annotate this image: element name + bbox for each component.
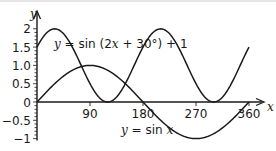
y-tick-label: 1.0 [12, 59, 31, 73]
x-tick-label: 90 [82, 107, 97, 121]
chart: −1−0.500.51.01.5290180270360 y x y = sin… [0, 0, 276, 151]
y-axis-label: y [29, 7, 37, 21]
x-tick-label: 360 [238, 107, 261, 121]
curve1-label-suffix: + 30°) + 1 [119, 37, 188, 51]
y-tick-label: 0.5 [12, 77, 31, 91]
curve1-label: y = sin (2x + 30°) + 1 [53, 37, 188, 51]
curve2-label-text: = sin [128, 123, 167, 137]
y-tick-label: −1 [13, 132, 31, 146]
y-tick-label: −0.5 [2, 114, 31, 128]
y-tick-label: 2 [23, 22, 31, 36]
curve1-label-text: = sin (2 [61, 37, 112, 51]
y-tick-label: 1.5 [12, 41, 31, 55]
x-tick-label: 270 [185, 107, 208, 121]
x-axis-label: x [267, 100, 274, 114]
x-tick-label: 180 [132, 107, 155, 121]
curve2-label-x: x [166, 123, 173, 137]
curve2-label: y = sin x [120, 123, 173, 137]
y-tick-label: 0 [23, 96, 31, 110]
